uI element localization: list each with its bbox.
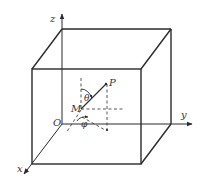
y-axis-label: y [180,109,187,120]
cube-coordinate-diagram: z y x O M P θ φ [0,0,203,191]
cube [32,29,171,164]
diagram-canvas: z y x O M P θ φ [0,0,203,191]
cube-edge-bottom-right-depth [141,124,171,164]
phi-label: φ [81,119,88,129]
axes [24,14,192,174]
theta-label: θ [84,93,90,103]
point-p-foot-dot [106,129,108,131]
point-p-label: P [108,77,116,88]
x-axis [24,124,62,174]
cube-edge-top-left-depth [32,29,62,69]
z-axis-label: z [49,13,56,24]
point-p-dot [105,83,107,85]
x-axis-label: x [17,163,23,174]
cube-edge-top-right-depth [141,29,171,69]
point-m-label: M [70,103,82,114]
origin-label: O [53,117,61,128]
